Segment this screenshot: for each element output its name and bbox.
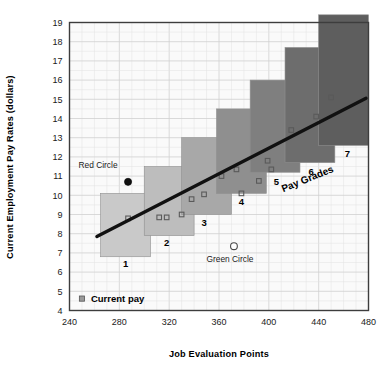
y-tick-9: 9 <box>57 210 62 220</box>
legend-marker-current-pay <box>79 296 84 301</box>
pay-grade-bar-1 <box>101 193 151 256</box>
x-tick-440: 440 <box>311 317 326 327</box>
y-tick-17: 17 <box>52 56 62 66</box>
y-tick-13: 13 <box>52 133 62 143</box>
y-tick-16: 16 <box>52 75 62 85</box>
y-axis-title: Current Employment Pay Rates (dollars) <box>5 75 15 259</box>
y-tick-6: 6 <box>57 267 62 277</box>
legend-label-current-pay: Current pay <box>91 293 145 304</box>
grade-number-label-4: 4 <box>239 196 245 207</box>
annotation-label-red-circle: Red Circle <box>78 160 117 170</box>
grade-number-label-2: 2 <box>164 237 169 248</box>
y-tick-12: 12 <box>52 152 62 162</box>
red-circle-marker <box>124 178 131 185</box>
y-tick-7: 7 <box>57 248 62 258</box>
x-tick-240: 240 <box>62 317 77 327</box>
grade-number-label-3: 3 <box>201 217 206 228</box>
pay-grade-bar-7 <box>319 15 369 146</box>
y-tick-5: 5 <box>57 287 62 297</box>
green-circle-marker <box>231 243 238 250</box>
y-tick-14: 14 <box>52 114 62 124</box>
x-tick-480: 480 <box>361 317 376 327</box>
grade-number-label-6: 6 <box>309 166 314 177</box>
y-tick-15: 15 <box>52 95 62 105</box>
x-tick-320: 320 <box>162 317 177 327</box>
x-tick-360: 360 <box>211 317 226 327</box>
annotation-label-green-circle: Green Circle <box>206 254 253 264</box>
chart-canvas: Red CircleGreen CirclePay Grades 1234567… <box>0 0 391 367</box>
y-tick-18: 18 <box>52 37 62 47</box>
grade-number-label-5: 5 <box>274 176 280 187</box>
y-tick-10: 10 <box>52 191 62 201</box>
y-tick-8: 8 <box>57 229 62 239</box>
y-tick-11: 11 <box>53 171 62 181</box>
x-tick-400: 400 <box>261 317 276 327</box>
grade-number-label-1: 1 <box>123 258 129 269</box>
grade-number-label-7: 7 <box>345 148 350 159</box>
pay-structure-chart: Red CircleGreen CirclePay Grades 1234567… <box>0 0 391 367</box>
x-tick-280: 280 <box>112 317 127 327</box>
y-tick-19: 19 <box>52 18 62 28</box>
y-tick-4: 4 <box>57 306 62 316</box>
x-axis-title: Job Evaluation Points <box>169 349 269 359</box>
